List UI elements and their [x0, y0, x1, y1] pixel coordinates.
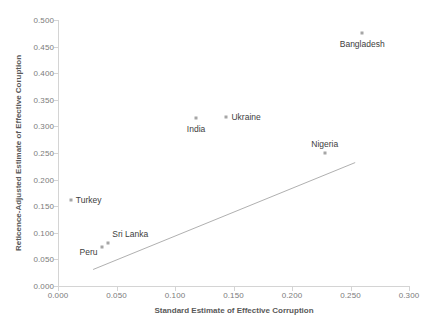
- x-tick-label: 0.300: [399, 291, 420, 300]
- y-axis-title: Reticence-Adjusted Estimate of Effective…: [12, 20, 26, 286]
- y-tick-label: 0.300: [33, 122, 54, 131]
- data-point-label: Peru: [79, 247, 97, 257]
- x-tick-mark: [234, 287, 235, 291]
- y-axis-tick-labels: 0.0000.0500.1000.1500.2000.2500.3000.350…: [0, 0, 54, 327]
- y-tick-mark: [54, 259, 58, 260]
- y-tick-mark: [54, 100, 58, 101]
- data-point-label: Nigeria: [311, 139, 338, 149]
- x-tick-mark: [175, 287, 176, 291]
- x-tick-mark: [117, 287, 118, 291]
- data-point-label: India: [187, 124, 205, 134]
- x-tick-mark: [292, 287, 293, 291]
- y-tick-label: 0.400: [33, 69, 54, 78]
- y-tick-mark: [54, 73, 58, 74]
- y-tick-mark: [54, 126, 58, 127]
- x-tick-label: 0.250: [340, 291, 361, 300]
- data-point-label: Ukraine: [231, 112, 260, 122]
- plot-area: [58, 20, 409, 286]
- x-tick-label: 0.000: [48, 291, 69, 300]
- x-axis-title: Standard Estimate of Effective Corruptio…: [58, 306, 410, 315]
- x-tick-label: 0.200: [282, 291, 303, 300]
- x-tick-label: 0.150: [223, 291, 244, 300]
- y-tick-label: 0.200: [33, 175, 54, 184]
- x-tick-label: 0.100: [165, 291, 186, 300]
- x-tick-label: 0.050: [106, 291, 127, 300]
- y-tick-label: 0.250: [33, 149, 54, 158]
- x-tick-mark: [58, 287, 59, 291]
- y-tick-label: 0.450: [33, 42, 54, 51]
- data-point: [195, 116, 198, 119]
- y-tick-label: 0.350: [33, 95, 54, 104]
- y-tick-mark: [54, 20, 58, 21]
- data-point: [323, 152, 326, 155]
- y-tick-label: 0.150: [33, 202, 54, 211]
- data-point-label: Turkey: [76, 195, 102, 205]
- data-point: [69, 198, 72, 201]
- y-tick-mark: [54, 180, 58, 181]
- data-point-label: Sri Lanka: [112, 229, 148, 239]
- y-tick-label: 0.100: [33, 228, 54, 237]
- y-tick-mark: [54, 153, 58, 154]
- data-point-label: Bangladesh: [340, 39, 385, 49]
- y-tick-label: 0.500: [33, 16, 54, 25]
- y-tick-label: 0.050: [33, 255, 54, 264]
- scatter-chart: 0.0000.0500.1000.1500.2000.2500.3000.350…: [0, 0, 430, 327]
- x-tick-mark: [409, 287, 410, 291]
- x-tick-mark: [351, 287, 352, 291]
- y-tick-mark: [54, 206, 58, 207]
- x-axis-tick-labels: 0.0000.0500.1000.1500.2000.2500.300: [0, 291, 430, 305]
- y-tick-label: 0.000: [33, 282, 54, 291]
- y-tick-mark: [54, 233, 58, 234]
- data-point: [107, 241, 110, 244]
- data-point: [225, 115, 228, 118]
- data-point: [361, 32, 364, 35]
- y-tick-mark: [54, 47, 58, 48]
- data-point: [101, 246, 104, 249]
